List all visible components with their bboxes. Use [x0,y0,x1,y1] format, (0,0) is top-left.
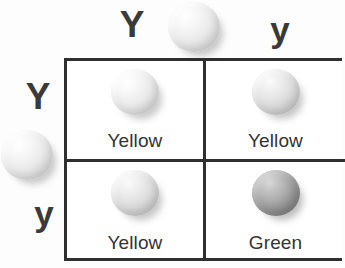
punnett-cell-label-3: Yellow [67,232,203,254]
allele-label-left-recessive: y [22,196,66,231]
punnett-cell-label-4: Green [206,232,345,254]
pea-seed-icon-parent-left [1,130,53,180]
punnett-cell-yy-recessive: Green [206,162,345,261]
pea-seed-icon-cell-3 [111,170,159,216]
punnett-cell-yy-dominant: Yellow [67,61,206,162]
punnett-grid: Yellow Yellow Yellow Green [64,58,342,261]
punnett-cell-yy-heterozygous-1: Yellow [206,61,345,162]
punnett-cell-yy-heterozygous-2: Yellow [67,162,206,261]
allele-label-top-dominant: Y [110,6,154,43]
punnett-cell-label-2: Yellow [206,130,345,152]
pea-seed-icon-parent-top [168,2,220,52]
allele-label-left-dominant: Y [16,78,60,115]
pea-seed-icon-cell-1 [111,69,159,115]
allele-label-top-recessive: y [258,12,302,47]
pea-seed-icon-cell-4 [252,170,300,216]
punnett-cell-label-1: Yellow [67,130,203,152]
pea-seed-icon-cell-2 [252,69,300,115]
